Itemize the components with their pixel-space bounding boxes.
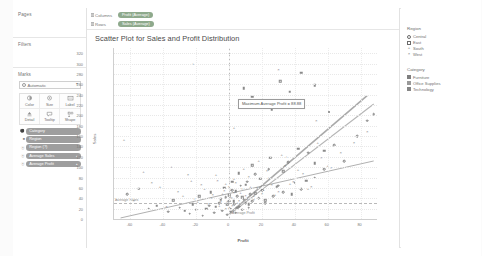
data-point-east[interactable] [305,179,308,182]
annotation-anchor-handle[interactable] [328,111,330,113]
data-point-south[interactable]: + [274,193,276,197]
data-point-west[interactable]: × [340,151,342,155]
data-point-west[interactable]: × [177,190,179,194]
data-point-west[interactable]: × [277,190,279,194]
data-point-west[interactable]: × [277,68,279,72]
pages-shelf[interactable]: Pages [13,8,86,38]
data-point-south[interactable]: + [289,182,291,186]
data-point-west[interactable]: × [234,181,236,185]
data-point-west[interactable]: × [233,191,235,195]
columns-rows-shelves: Columns Profit (Average) Rows Sales (Ave… [87,8,399,30]
x-tick-label: 40 [292,222,296,227]
data-point-east[interactable] [155,204,158,207]
y-gridline [114,53,377,54]
data-point-west[interactable]: × [266,169,268,173]
data-point-east[interactable] [231,180,234,183]
data-point-west[interactable]: × [216,179,218,183]
data-point-south[interactable]: + [225,182,227,186]
data-point-west[interactable]: × [353,141,355,145]
data-point-south[interactable]: + [297,168,299,172]
data-point-east[interactable] [244,184,247,187]
data-point-south[interactable]: + [142,170,144,174]
data-point-central[interactable] [287,161,290,164]
data-point-west[interactable]: × [151,181,153,185]
data-point-central[interactable] [213,211,216,214]
marks-pill-label: Average Profit [29,161,54,168]
data-point-south[interactable]: + [317,141,319,145]
x-gridline [262,48,263,219]
data-point-west[interactable]: × [366,130,368,134]
data-point-east[interactable] [290,193,293,196]
data-point-central[interactable] [249,193,252,196]
data-point-south[interactable]: + [123,138,125,142]
marks-color-label: Color [25,103,34,107]
data-point-central[interactable] [254,173,257,176]
plot-area[interactable]: +++++++++++++++++++++++++++++++++++++×××… [114,48,377,219]
data-point-east[interactable] [289,90,292,93]
data-point-south[interactable]: + [257,159,259,163]
data-point-east[interactable] [264,199,267,202]
data-point-west[interactable]: × [315,118,317,122]
data-point-east[interactable] [279,80,282,83]
data-point-central[interactable] [167,210,170,213]
plot-frame: +++++++++++++++++++++++++++++++++++++×××… [113,48,377,220]
data-point-central[interactable] [323,168,326,171]
data-point-central[interactable] [343,160,346,163]
data-point-central[interactable] [236,195,239,198]
data-point-east[interactable] [251,95,254,98]
data-point-central[interactable] [126,193,129,196]
rows-pill-sales[interactable]: Sales (Average) [118,21,154,28]
data-point-east[interactable] [183,209,186,212]
data-point-east[interactable] [238,172,241,175]
y-gridline [114,136,377,137]
grip-icon [91,22,94,26]
color-swatch-icon [407,81,411,85]
pill-field-type-icon: Ⓐ [19,153,25,159]
legend-panel: RegionCentralEast+South×WestCategoryFurn… [401,8,481,248]
grip-icon [91,13,94,17]
data-point-east[interactable] [323,149,326,152]
data-point-central[interactable] [201,215,204,218]
legend-entry[interactable]: Technology [407,86,476,92]
y-tick-label: 0 [81,217,83,222]
y-tick-label: 200 [77,113,84,118]
data-point-south[interactable]: + [190,179,192,183]
data-point-west[interactable]: × [271,183,273,187]
data-point-central[interactable] [307,151,310,154]
data-point-central[interactable] [366,119,369,122]
marks-tooltip-label: Tooltip [44,118,55,122]
data-point-central[interactable] [221,209,224,212]
data-point-east[interactable] [297,147,300,150]
marks-size-button[interactable]: Size [40,94,60,109]
data-point-east[interactable] [172,199,175,202]
marks-color-button[interactable]: Color [20,94,40,109]
data-point-central[interactable] [282,191,285,194]
tooltip-icon [46,111,53,118]
data-point-west[interactable]: × [211,193,213,197]
visualization-canvas[interactable]: Scatter Plot for Sales and Profit Distri… [87,30,399,248]
data-point-central[interactable] [188,213,191,216]
data-point-east[interactable] [251,164,254,167]
data-point-east[interactable] [215,205,218,208]
y-gridline [114,209,377,210]
annotation-box[interactable]: Maximum Average Profit = 88.88 [238,99,305,109]
data-point-west[interactable]: × [302,172,304,176]
columns-pill-profit[interactable]: Profit (Average) [118,12,153,19]
rows-shelf[interactable]: Rows Sales (Average) [91,20,395,29]
data-point-south[interactable]: + [239,191,241,195]
y-gridline [114,115,377,116]
legend-card-region: RegionCentralEast+South×West [407,26,476,58]
data-point-west[interactable]: × [200,183,202,187]
marks-tooltip-button[interactable]: Tooltip [40,109,60,124]
data-point-east[interactable] [282,170,285,173]
data-point-east[interactable] [198,195,201,198]
data-point-east[interactable] [243,87,246,90]
marks-detail-button[interactable]: Detail [20,109,40,124]
legend-entry[interactable]: ×West [407,52,476,58]
data-point-east[interactable] [313,162,316,165]
pill-field-type-icon: ⚫ [19,128,25,134]
data-point-west[interactable]: × [223,189,225,193]
y-tick-label: 180 [77,123,84,128]
tableau-worksheet-window: Pages Filters Marks Automatic ▾ Color [0,0,482,256]
columns-shelf[interactable]: Columns Profit (Average) [91,11,395,20]
